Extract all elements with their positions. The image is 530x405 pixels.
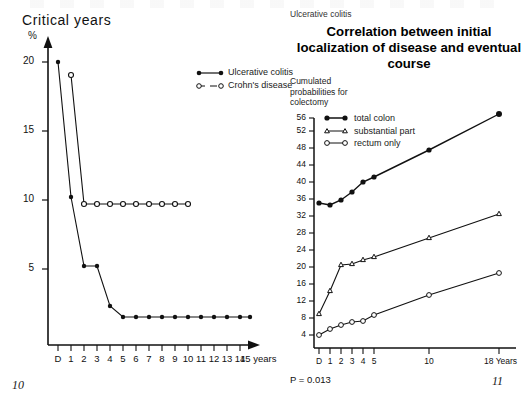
right-ytick-8: 8 [290,312,306,322]
left-x-axis-end-label: 15 years [240,353,276,364]
legend-marker-filled-dot-line [323,113,349,123]
right-ytick-16: 16 [290,278,306,288]
left-chart-canvas [0,0,278,378]
right-ytick-40: 40 [290,176,306,186]
series-substantial-part [317,211,502,315]
right-ytick-48: 48 [290,142,306,152]
right-ytick-28: 28 [290,227,306,237]
left-ytick-5: 5 [12,262,34,273]
series-ulcerative-colitis [56,60,252,319]
legend-item-rectum-only: rectum only [323,137,415,150]
page-number-left: 10 [12,378,24,393]
right-ytick-12: 12 [290,295,306,305]
right-ytick-24: 24 [290,244,306,254]
right-ytick-36: 36 [290,193,306,203]
right-ytick-4: 4 [290,329,306,339]
legend-item-substantial-part: substantial part [323,125,415,138]
left-ytick-15: 15 [12,124,34,135]
right-ytick-56: 56 [290,112,306,122]
legend-marker-filled-dot-line [196,68,224,78]
right-ytick-52: 52 [290,125,306,135]
left-chart-legend: Ulcerative colitis Crohn's disease [196,66,293,92]
legend-marker-open-circle-dashed [196,81,224,91]
legend-item-ulcerative-colitis: Ulcerative colitis [196,66,293,79]
legend-marker-open-circle-line [323,138,349,148]
right-figure: Ulcerative colitis Correlation between i… [288,0,530,390]
right-ytick-20: 20 [290,261,306,271]
left-ytick-20: 20 [12,55,34,66]
left-x-ticks [58,345,240,351]
right-chart-legend: total colon substantial part rectum only [323,112,415,150]
right-x-ticks [319,348,499,354]
legend-item-total-colon: total colon [323,112,415,125]
right-xtick-10: 10 [422,356,436,366]
page-number-right: 11 [492,374,503,389]
left-x-axis-arrow [248,341,260,350]
left-y-axis-arrow [44,36,53,48]
right-ytick-44: 44 [290,159,306,169]
right-xtick-5: 5 [367,356,381,366]
p-value-annotation: P = 0.013 [290,374,331,385]
left-ytick-10: 10 [12,193,34,204]
figure-page: Critical years % [0,0,530,405]
left-figure: Critical years % [0,0,278,378]
right-chart-canvas [288,0,530,390]
series-rectum-only [317,271,502,338]
legend-label-ulcerative-colitis: Ulcerative colitis [228,66,293,79]
left-y-ticks [42,62,48,269]
legend-label-crohns-disease: Crohn's disease [228,79,292,92]
right-ytick-32: 32 [290,210,306,220]
legend-item-crohns-disease: Crohn's disease [196,79,293,92]
series-crohns-disease [69,73,191,207]
legend-label-substantial-part: substantial part [354,125,415,138]
legend-label-total-colon: total colon [354,112,395,125]
right-x-axis-end-label: 18 Years [484,356,517,366]
legend-marker-open-triangle-line [323,126,349,136]
legend-label-rectum-only: rectum only [354,137,401,150]
